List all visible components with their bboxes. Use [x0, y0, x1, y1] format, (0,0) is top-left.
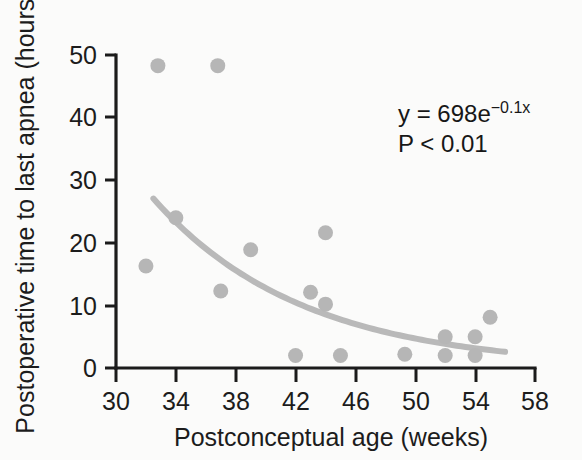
x-tick-label-30: 30	[102, 387, 130, 415]
data-point	[483, 310, 498, 325]
scatter-chart-figure: 50 40 30 20 10 0 30 34 38 42 46 50 54 58…	[0, 0, 582, 460]
y-tick-label-30: 30	[69, 166, 97, 194]
data-point	[468, 348, 483, 363]
y-tick-label-40: 40	[69, 103, 97, 131]
data-point	[168, 210, 183, 225]
y-axis-ticks	[105, 55, 116, 368]
x-tick-label-54: 54	[462, 387, 490, 415]
p-value-annotation: P < 0.01	[398, 130, 488, 157]
data-point	[438, 348, 453, 363]
y-tick-label-0: 0	[83, 354, 97, 382]
y-tick-label-20: 20	[69, 229, 97, 257]
x-tick-label-42: 42	[282, 387, 310, 415]
x-tick-label-34: 34	[162, 387, 190, 415]
data-point	[468, 329, 483, 344]
data-point	[150, 58, 165, 73]
chart-canvas: 50 40 30 20 10 0 30 34 38 42 46 50 54 58…	[0, 0, 582, 460]
y-axis-title: Postoperative time to last apnea (hours)	[11, 0, 39, 434]
data-point	[318, 225, 333, 240]
y-tick-label-10: 10	[69, 292, 97, 320]
y-tick-label-50: 50	[69, 41, 97, 69]
data-point	[138, 258, 153, 273]
equation-base: y = 698e	[398, 100, 491, 127]
x-tick-label-46: 46	[342, 387, 370, 415]
exponential-fit-curve	[153, 199, 505, 352]
data-point	[288, 348, 303, 363]
x-axis-ticks	[116, 368, 535, 382]
svg-text:y = 698e−0.1x: y = 698e−0.1x	[398, 99, 530, 127]
fit-equation-annotation: y = 698e−0.1x P < 0.01	[398, 99, 530, 157]
x-tick-label-58: 58	[521, 387, 549, 415]
data-point	[210, 58, 225, 73]
data-point	[397, 347, 412, 362]
data-point	[243, 242, 258, 257]
data-point	[303, 285, 318, 300]
x-axis-title: Postconceptual age (weeks)	[174, 423, 488, 451]
data-point	[318, 297, 333, 312]
data-point	[333, 348, 348, 363]
equation-exponent: −0.1x	[491, 99, 531, 116]
x-tick-label-38: 38	[222, 387, 250, 415]
x-tick-label-50: 50	[402, 387, 430, 415]
data-point	[438, 329, 453, 344]
data-point	[213, 284, 228, 299]
